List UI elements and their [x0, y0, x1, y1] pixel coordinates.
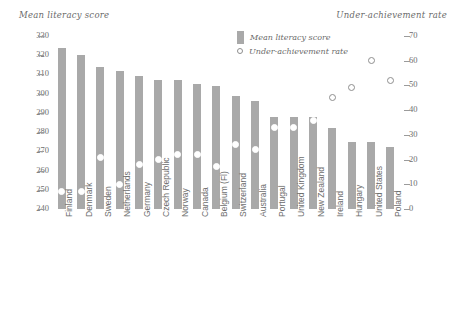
point-sweden: [97, 154, 104, 161]
left-tick-mark-270: [38, 151, 44, 152]
right-tick-label-50: 50: [409, 80, 418, 89]
category-label-netherlands: Netherlands: [123, 171, 132, 217]
category-label-ireland: Ireland: [336, 191, 345, 217]
left-tick-mark-280: [38, 132, 44, 133]
left-tick-mark-310: [38, 74, 44, 75]
category-label-united-kingdom: United Kingdom: [297, 157, 306, 217]
literacy-chart: Mean literacy score Under-achievement ra…: [0, 0, 453, 316]
point-poland: [387, 77, 394, 84]
category-label-czech-republic: Czech Republic: [162, 157, 171, 217]
legend-item-point: Under-achievement rate: [232, 44, 348, 58]
category-label-germany: Germany: [143, 182, 152, 217]
right-tick-mark-0: [404, 209, 410, 210]
category-label-united-states: United States: [375, 166, 384, 217]
right-axis-title: Under-achievement rate: [336, 10, 447, 20]
category-label-hungary: Hungary: [355, 185, 364, 217]
right-tick-label-70: 70: [409, 31, 418, 40]
legend-bar-label: Mean literacy score: [250, 33, 331, 42]
point-portugal: [271, 124, 278, 131]
left-tick-mark-240: [38, 209, 44, 210]
point-new-zealand: [310, 117, 317, 124]
point-united-states: [368, 57, 375, 64]
left-tick-mark-250: [38, 190, 44, 191]
point-canada: [194, 151, 201, 158]
right-tick-mark-30: [404, 135, 410, 136]
left-axis-title: Mean literacy score: [19, 10, 109, 20]
category-label-portugal: Portugal: [278, 185, 287, 217]
bar-finland: [58, 48, 66, 209]
category-label-sweden: Sweden: [104, 186, 113, 217]
right-tick-mark-70: [404, 36, 410, 37]
category-label-finland: Finland: [65, 189, 74, 217]
category-label-denmark: Denmark: [85, 183, 94, 217]
category-label-switzerland: Switzerland: [239, 173, 248, 217]
point-ireland: [329, 94, 336, 101]
legend-bar-swatch: [237, 31, 244, 44]
right-tick-label-20: 20: [409, 155, 418, 164]
right-tick-label-40: 40: [409, 105, 418, 114]
point-australia: [252, 146, 259, 153]
right-tick-mark-20: [404, 160, 410, 161]
point-hungary: [348, 84, 355, 91]
category-label-poland: Poland: [394, 191, 403, 217]
right-tick-mark-50: [404, 85, 410, 86]
left-tick-mark-290: [38, 113, 44, 114]
left-tick-mark-330: [38, 36, 44, 37]
point-germany: [136, 161, 143, 168]
right-tick-label-60: 60: [409, 56, 418, 65]
left-tick-mark-260: [38, 171, 44, 172]
category-label-new-zealand: New Zealand: [317, 167, 326, 217]
left-tick-mark-300: [38, 94, 44, 95]
right-tick-label-30: 30: [409, 130, 418, 139]
legend-circle-swatch: [237, 48, 243, 54]
category-label-canada: Canada: [201, 187, 210, 217]
right-tick-label-10: 10: [409, 179, 418, 188]
category-label-belgium-fl-: Belgium (Fl): [220, 171, 229, 217]
category-label-australia: Australia: [259, 184, 268, 217]
left-tick-mark-320: [38, 55, 44, 56]
legend-point-label: Under-achievement rate: [249, 47, 348, 56]
right-tick-mark-60: [404, 61, 410, 62]
category-label-norway: Norway: [181, 188, 190, 217]
chart-legend: Mean literacy score Under-achievement ra…: [232, 30, 348, 58]
right-tick-mark-10: [404, 184, 410, 185]
right-tick-mark-40: [404, 110, 410, 111]
legend-item-bar: Mean literacy score: [232, 30, 348, 44]
